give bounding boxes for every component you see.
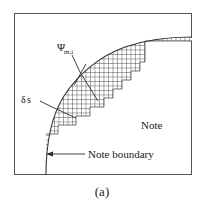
note-boundary-diagram: Ψ m,i δ s Note Note boundary (a) — [0, 0, 205, 204]
psi-subscript: m,i — [64, 48, 73, 56]
figure-caption: (a) — [95, 184, 109, 199]
delta-s-label: δ — [21, 94, 26, 105]
figure-container: Ψ m,i δ s Note Note boundary (a) — [0, 0, 205, 204]
note-boundary-label: Note boundary — [88, 148, 154, 160]
delta-s-subscript: s — [27, 94, 31, 105]
note-region-label: Note — [141, 119, 163, 131]
